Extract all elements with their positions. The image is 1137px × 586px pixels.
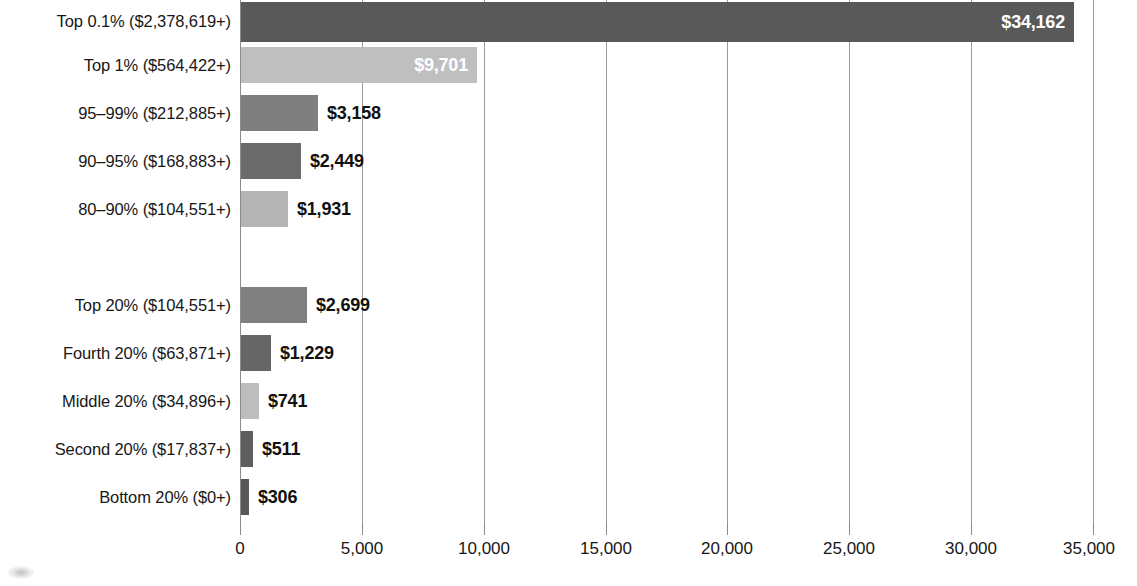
axis-tick	[849, 524, 850, 535]
bar-row: Fourth 20% ($63,871+) $1,229	[240, 332, 1093, 374]
bar-value-label: $306	[258, 487, 297, 508]
axis-tick-label: 10,000	[458, 539, 510, 559]
bar-value-label: $2,449	[310, 151, 364, 172]
bar-row: 95–99% ($212,885+) $3,158	[240, 92, 1093, 134]
axis-tick	[484, 524, 485, 535]
bar-value-label: $3,158	[327, 103, 381, 124]
bar: $9,701	[241, 47, 477, 83]
axis-tick-label: 30,000	[945, 539, 997, 559]
bar: $741	[241, 383, 259, 419]
x-axis: 0 5,000 10,000 15,000 20,000 25,000 30,0…	[240, 524, 1093, 586]
bar-value-label: $741	[268, 391, 307, 412]
bar-row: 80–90% ($104,551+) $1,931	[240, 188, 1093, 230]
axis-tick-label: 0	[235, 539, 244, 559]
bar-row: Top 1% ($564,422+) $9,701	[240, 44, 1093, 86]
bar-row: Top 20% ($104,551+) $2,699	[240, 284, 1093, 326]
category-label: 80–90% ($104,551+)	[78, 200, 231, 219]
axis-tick	[606, 524, 607, 535]
plot-area: Top 0.1% ($2,378,619+) $34,162 Top 1% ($…	[240, 0, 1093, 524]
bar-chart: Top 0.1% ($2,378,619+) $34,162 Top 1% ($…	[0, 0, 1137, 586]
bar-row: 90–95% ($168,883+) $2,449	[240, 140, 1093, 182]
bar: $3,158	[241, 95, 318, 131]
axis-tick	[1093, 524, 1094, 535]
bar-value-label: $9,701	[414, 55, 468, 76]
axis-tick	[971, 524, 972, 535]
category-label: 95–99% ($212,885+)	[78, 104, 231, 123]
scan-artifact	[8, 566, 34, 579]
bar-value-label: $2,699	[316, 295, 370, 316]
gridline-35000	[1093, 0, 1094, 524]
category-label: Top 0.1% ($2,378,619+)	[57, 12, 231, 31]
category-label: Second 20% ($17,837+)	[55, 440, 231, 459]
bar: $1,229	[241, 335, 271, 371]
axis-tick-label: 20,000	[701, 539, 753, 559]
bar: $2,449	[241, 143, 301, 179]
bar: $2,699	[241, 287, 307, 323]
bar: $1,931	[241, 191, 288, 227]
bar: $511	[241, 431, 253, 467]
axis-tick-label: 5,000	[341, 539, 384, 559]
category-label: Top 1% ($564,422+)	[84, 56, 231, 75]
axis-tick	[727, 524, 728, 535]
axis-tick-label: 25,000	[823, 539, 875, 559]
category-label: Fourth 20% ($63,871+)	[63, 344, 231, 363]
category-label: Middle 20% ($34,896+)	[62, 392, 231, 411]
bar: $34,162	[241, 2, 1074, 42]
bar-value-label: $34,162	[1001, 12, 1065, 33]
axis-tick-label: 35,000	[1063, 539, 1115, 559]
bar-value-label: $511	[262, 439, 300, 460]
axis-tick	[240, 524, 241, 535]
bar-row: Bottom 20% ($0+) $306	[240, 476, 1093, 518]
bar-row: Second 20% ($17,837+) $511	[240, 428, 1093, 470]
bar-row: Top 0.1% ($2,378,619+) $34,162	[240, 0, 1093, 42]
bar-row: Middle 20% ($34,896+) $741	[240, 380, 1093, 422]
bar: $306	[241, 479, 249, 515]
axis-tick-label: 15,000	[580, 539, 632, 559]
category-label: Top 20% ($104,551+)	[75, 296, 231, 315]
axis-tick	[362, 524, 363, 535]
category-label: Bottom 20% ($0+)	[99, 488, 231, 507]
bar-value-label: $1,931	[297, 199, 351, 220]
bar-value-label: $1,229	[280, 343, 334, 364]
category-label: 90–95% ($168,883+)	[78, 152, 231, 171]
